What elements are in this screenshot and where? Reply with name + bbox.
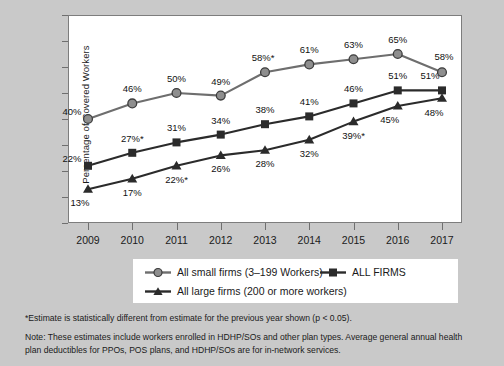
data-point-marker [173,138,181,146]
data-point-label: 27%* [121,134,144,144]
data-point-label: 51% [420,71,439,81]
y-tick-mark [62,223,68,224]
data-point-marker [394,86,402,94]
data-point-label: 46% [344,84,363,94]
data-point-marker [128,99,137,108]
legend-item-large-firms: All large firms (200 or more workers) [145,285,347,297]
data-point-label: 17% [123,188,142,198]
data-point-label: 46% [123,84,142,94]
data-point-marker [393,50,402,59]
data-point-marker [84,115,93,124]
data-point-label: 39%* [342,131,365,141]
data-point-label: 26% [211,164,230,174]
triangle-marker-icon [145,286,171,297]
footnote-significance: *Estimate is statistically different fro… [25,312,485,325]
data-point-marker [216,91,225,100]
x-tick-label: 2017 [412,234,472,246]
legend-label-all-firms: ALL FIRMS [352,266,406,278]
data-point-label: 51% [388,71,407,81]
data-point-marker [305,60,314,69]
footnote-note: Note: These estimates include workers en… [25,331,477,356]
data-point-label: 65% [388,35,407,45]
data-point-label: 61% [300,45,319,55]
data-point-label: 38% [255,105,274,115]
data-point-label: 49% [211,77,230,87]
chart-legend: All small firms (3–199 Workers) All larg… [133,259,458,303]
legend-item-all-firms: ALL FIRMS [320,266,406,278]
circle-marker-icon [145,267,171,278]
data-point-label: 58%* [252,53,275,63]
data-point-label: 28% [255,159,274,169]
x-tick-mark [132,223,133,230]
chart-figure: Percentage of Covered Workers 0%10%20%30… [0,0,504,366]
data-point-label: 34% [211,116,230,126]
data-point-marker [305,112,313,120]
square-marker-icon [320,267,346,278]
data-point-label: 40% [62,107,81,117]
data-point-label: 50% [167,74,186,84]
data-point-label: 45% [380,115,399,125]
legend-item-small-firms: All small firms (3–199 Workers) [145,266,323,278]
legend-label-large-firms: All large firms (200 or more workers) [177,285,347,297]
x-tick-mark [221,223,222,230]
data-point-marker [84,162,92,170]
x-tick-mark [442,223,443,230]
data-point-label: 48% [424,108,443,118]
x-tick-mark [309,223,310,230]
data-point-label: 32% [300,149,319,159]
data-point-marker [217,131,225,139]
data-point-label: 13% [70,198,89,208]
data-point-marker [349,55,358,64]
data-point-label: 58% [434,52,453,62]
data-point-marker [261,120,269,128]
legend-label-small-firms: All small firms (3–199 Workers) [177,266,323,278]
plot-area: Percentage of Covered Workers 0%10%20%30… [68,15,462,223]
data-point-marker [350,99,358,107]
data-point-marker [437,93,447,102]
data-point-marker [172,89,181,98]
x-tick-mark [398,223,399,230]
x-tick-mark [265,223,266,230]
x-tick-mark [88,223,89,230]
data-point-marker [128,149,136,157]
data-point-label: 22% [62,154,81,164]
data-point-marker [261,68,270,77]
x-tick-mark [354,223,355,230]
data-point-label: 41% [300,97,319,107]
data-point-label: 63% [344,40,363,50]
data-point-label: 31% [167,123,186,133]
data-point-label: 22%* [165,175,188,185]
x-tick-mark [177,223,178,230]
